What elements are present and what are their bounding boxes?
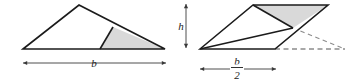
height-label-h: h	[178, 20, 184, 32]
left-triangle-group: b	[23, 5, 166, 69]
base-label-b: b	[91, 57, 97, 69]
fraction-denominator: 2	[234, 69, 240, 81]
geometry-figure-container: b h	[0, 0, 360, 82]
base-label-b-over-2: b 2	[230, 55, 244, 81]
height-dimension-arrow-h: h	[178, 4, 188, 48]
right-parallelogram-group: b 2	[200, 5, 345, 81]
geometry-figure-svg: b h	[0, 0, 360, 82]
dashed-diagonal-construction-line	[293, 28, 345, 49]
